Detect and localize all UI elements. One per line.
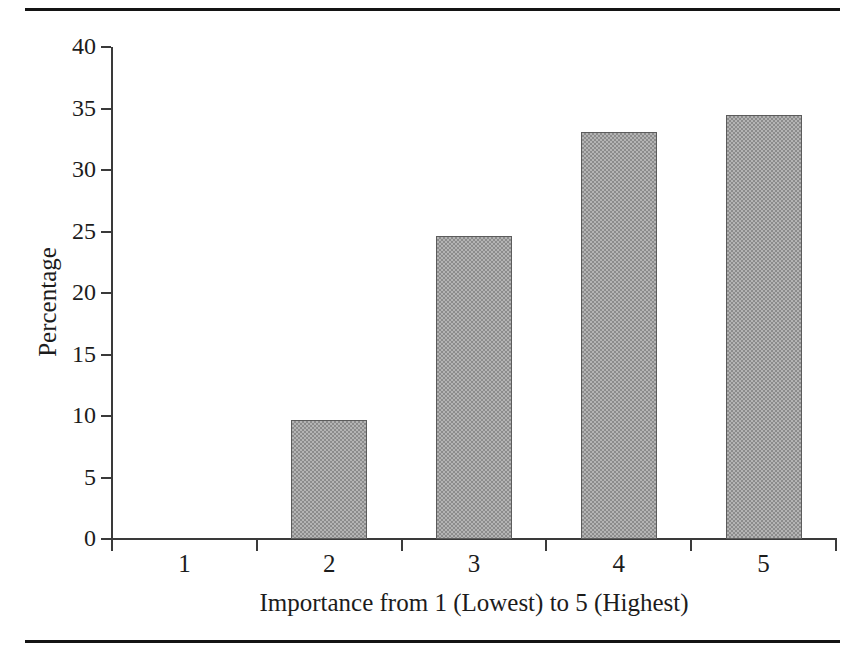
bar-2 (291, 420, 367, 539)
y-axis-tick-label-text: 35 (56, 96, 96, 120)
y-axis-tick (101, 538, 111, 540)
x-axis-category-label-2: 2 (269, 549, 389, 579)
bar-5 (726, 115, 802, 539)
x-axis-tick (690, 540, 692, 551)
y-axis-tick-label-text: 0 (56, 526, 96, 550)
y-axis-tick-label-text: 25 (56, 219, 96, 243)
y-axis-tick-label: 5 (48, 465, 96, 489)
y-axis-tick-label: 10 (48, 403, 96, 427)
x-axis-category-label-4: 4 (559, 549, 679, 579)
y-axis-tick-label-text: 30 (56, 157, 96, 181)
y-axis-tick (101, 292, 111, 294)
plot-area (112, 47, 836, 539)
y-axis-tick (101, 46, 111, 48)
top-horizontal-rule (25, 8, 840, 11)
y-axis-tick (101, 415, 111, 417)
x-axis-category-label-3: 3 (414, 549, 534, 579)
y-axis-tick (101, 477, 111, 479)
x-axis-tick (401, 540, 403, 551)
y-axis-tick-label-text: 15 (56, 342, 96, 366)
bar-3 (436, 236, 512, 539)
x-axis-tick (256, 540, 258, 551)
y-axis-tick-label-text: 20 (56, 280, 96, 304)
figure-container: Percentage 0510152025303540 12345 Import… (0, 0, 865, 659)
y-axis-tick (101, 231, 111, 233)
x-axis-category-label-1: 1 (124, 549, 244, 579)
x-axis-title: Importance from 1 (Lowest) to 5 (Highest… (112, 588, 836, 618)
y-axis-tick-label: 35 (48, 96, 96, 120)
bar-4 (581, 132, 657, 539)
y-axis-tick-label: 20 (48, 280, 96, 304)
y-axis-tick (101, 108, 111, 110)
y-axis-tick (101, 354, 111, 356)
y-axis-tick-label-text: 5 (56, 465, 96, 489)
x-axis-tick (111, 540, 113, 551)
y-axis-tick-label: 30 (48, 157, 96, 181)
x-axis-category-label-5: 5 (704, 549, 824, 579)
y-axis-tick-label: 15 (48, 342, 96, 366)
y-axis-tick-label: 40 (48, 34, 96, 58)
y-axis-tick-label-text: 10 (56, 403, 96, 427)
x-axis-tick (835, 540, 837, 551)
y-axis-tick-label: 0 (48, 526, 96, 550)
x-axis-tick (545, 540, 547, 551)
bottom-horizontal-rule (25, 640, 840, 643)
y-axis-tick-label-text: 40 (56, 34, 96, 58)
y-axis-tick (101, 169, 111, 171)
y-axis-tick-label: 25 (48, 219, 96, 243)
